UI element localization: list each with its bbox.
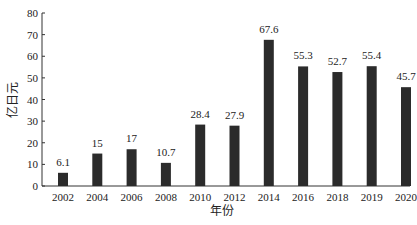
y-axis-title: 亿日元 xyxy=(5,82,20,118)
bar xyxy=(195,125,205,186)
x-tick-label: 2006 xyxy=(121,191,144,203)
bar-value-label: 6.1 xyxy=(56,156,70,168)
x-tick-label: 2004 xyxy=(86,191,109,203)
bar-value-label: 17 xyxy=(126,132,138,144)
bar xyxy=(401,87,411,186)
y-tick-label: 50 xyxy=(27,72,39,84)
bar-value-label: 52.7 xyxy=(328,55,348,67)
y-tick-label: 20 xyxy=(27,137,39,149)
bar xyxy=(161,163,171,186)
y-tick-label: 0 xyxy=(33,180,39,192)
bar xyxy=(332,72,342,186)
y-tick-label: 70 xyxy=(27,29,39,41)
x-tick-label: 2002 xyxy=(52,191,74,203)
bar xyxy=(230,126,240,186)
bar xyxy=(58,173,68,186)
bar-value-label: 55.3 xyxy=(293,49,313,61)
bar-chart: 01020304050607080 2002200420062008201020… xyxy=(0,0,417,225)
y-tick-label: 40 xyxy=(27,94,39,106)
x-tick-label: 2019 xyxy=(361,191,384,203)
bar xyxy=(127,149,137,186)
x-tick-label: 2018 xyxy=(326,191,349,203)
bar xyxy=(264,40,274,186)
bar-value-label: 28.4 xyxy=(191,108,211,120)
bar xyxy=(92,154,102,186)
x-tick-label: 2020 xyxy=(395,191,417,203)
bar xyxy=(367,66,377,186)
x-axis-title: 年份 xyxy=(210,204,234,218)
y-tick-label: 10 xyxy=(27,158,39,170)
bars: 6.1151710.728.427.967.655.352.755.445.7 xyxy=(56,23,416,186)
bar-value-label: 10.7 xyxy=(156,146,176,158)
x-tick-label: 2012 xyxy=(224,191,246,203)
x-tick-label: 2016 xyxy=(292,191,315,203)
y-axis: 01020304050607080 xyxy=(27,7,45,192)
bar xyxy=(298,66,308,186)
x-tick-label: 2014 xyxy=(258,191,281,203)
bar-value-label: 67.6 xyxy=(259,23,279,35)
bar-value-label: 15 xyxy=(92,137,104,149)
bar-value-label: 45.7 xyxy=(396,70,416,82)
x-tick-label: 2010 xyxy=(189,191,212,203)
x-tick-label: 2008 xyxy=(155,191,178,203)
bar-value-label: 27.9 xyxy=(225,109,245,121)
y-tick-label: 60 xyxy=(27,50,39,62)
y-tick-label: 80 xyxy=(27,7,39,19)
bar-value-label: 55.4 xyxy=(362,49,382,61)
x-axis: 2002200420062008201020122014201620182019… xyxy=(42,186,417,203)
y-tick-label: 30 xyxy=(27,115,39,127)
